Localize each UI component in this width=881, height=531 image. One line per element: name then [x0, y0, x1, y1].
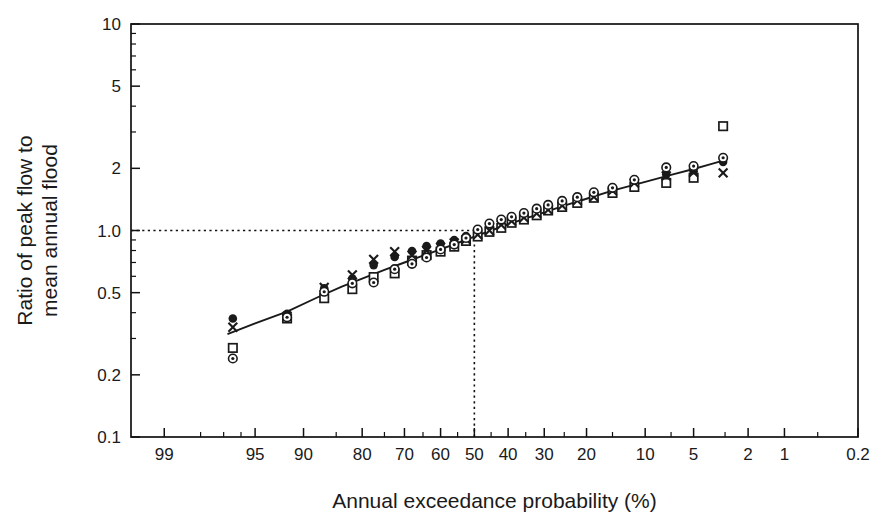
y-axis-title-line1: Ratio of peak flow to [13, 135, 36, 325]
dotted-circle-series-point [558, 197, 567, 206]
x-tick-label: 99 [155, 445, 174, 464]
x-tick-label: 50 [465, 445, 484, 464]
dotted-circle-series-point [689, 162, 698, 171]
x-tick-label: 70 [395, 445, 414, 464]
dotted-circle-series-point [520, 209, 529, 218]
y-axis-title-line2: mean annual flood [38, 144, 61, 317]
dotted-circle-series-point [320, 287, 329, 296]
x-tick-label: 0.2 [846, 445, 870, 464]
dotted-circle-series-point [497, 215, 506, 224]
dotted-circle-series-point [544, 201, 553, 210]
dotted-circle-series-point [229, 354, 238, 363]
y-tick-label: 0.1 [97, 428, 121, 447]
open-square-series-point [229, 344, 237, 352]
x-axis-tick-labels: 99959080706050403020105210.2 [155, 445, 870, 464]
x-tick-label: 40 [499, 445, 518, 464]
x-tick-label: 5 [689, 445, 698, 464]
dotted-circle-series-point [369, 278, 378, 287]
x-tick-label: 30 [535, 445, 554, 464]
cross-series-point [719, 169, 728, 178]
figure-container: 99959080706050403020105210.2 0.10.20.51.… [0, 0, 881, 531]
x-tick-label: 10 [636, 445, 655, 464]
dotted-circle-series-point [473, 225, 482, 234]
x-tick-label: 90 [294, 445, 313, 464]
dotted-circle-series-point [662, 163, 671, 172]
dotted-circle-series-point [719, 153, 728, 162]
dotted-circle-series-point [390, 265, 399, 274]
fitted-frequency-curve [227, 161, 723, 334]
x-tick-label: 1 [780, 445, 789, 464]
dotted-circle-series-point [590, 188, 599, 197]
x-tick-label: 95 [246, 445, 265, 464]
dotted-circle-series-point [436, 245, 445, 254]
y-tick-label: 10 [102, 15, 121, 34]
dotted-circle-series-point [422, 253, 431, 262]
reference-lines [131, 231, 474, 438]
fitted-curve [227, 161, 723, 334]
dotted-circle-series-point [485, 219, 494, 228]
y-tick-label: 0.5 [97, 284, 121, 303]
dotted-circle-series-point [450, 240, 459, 249]
dotted-circle-series-point [573, 193, 582, 202]
cross-series-point [228, 323, 237, 332]
filled-circle-series-point [229, 314, 238, 323]
dotted-circle-series-point [608, 183, 617, 192]
dotted-circle-series-point [532, 204, 541, 213]
dotted-circle-series-point [408, 259, 417, 268]
y-tick-label: 1.0 [97, 222, 121, 241]
x-tick-label: 60 [431, 445, 450, 464]
dotted-circle-series-point [462, 234, 471, 243]
y-tick-label: 2 [112, 159, 121, 178]
x-tick-label: 80 [353, 445, 372, 464]
dotted-circle-series-point [507, 213, 516, 222]
flood-frequency-chart: 99959080706050403020105210.2 0.10.20.51.… [0, 0, 881, 531]
data-markers [228, 122, 727, 363]
y-tick-label: 0.2 [97, 366, 121, 385]
plot-frame [131, 24, 858, 437]
y-tick-label: 5 [112, 77, 121, 96]
x-axis-title: Annual exceedance probability (%) [332, 489, 657, 512]
dotted-circle-series-point [283, 313, 292, 322]
x-axis-major-ticks [164, 428, 858, 437]
x-tick-label: 20 [577, 445, 596, 464]
open-square-series-point [719, 122, 727, 130]
dotted-circle-series-point [348, 279, 357, 288]
x-tick-label: 2 [743, 445, 752, 464]
y-axis-tick-labels: 0.10.20.51.02510 [97, 15, 121, 447]
dotted-circle-series-point [630, 176, 639, 185]
